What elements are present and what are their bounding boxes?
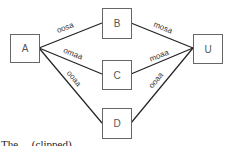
edge-label-a-d: ooaa bbox=[65, 69, 84, 89]
node-u: U bbox=[194, 35, 223, 64]
node-a: A bbox=[11, 35, 40, 63]
edge-label-c-u: moaa bbox=[148, 48, 170, 64]
edge-label-d-u: ooaa bbox=[147, 70, 166, 90]
node-c: C bbox=[103, 61, 132, 90]
node-b: B bbox=[103, 9, 132, 39]
edge-a-d: ooaa bbox=[39, 48, 102, 123]
edge-b-u: mosa bbox=[131, 20, 193, 48]
graph-diagram: oosa omaa ooaa mosa moaa ooaa A B C D U bbox=[0, 0, 230, 146]
edge-a-b: oosa bbox=[39, 20, 102, 48]
edge-label-a-b: oosa bbox=[55, 20, 75, 35]
node-u-label: U bbox=[204, 44, 211, 55]
figure-caption-clipped: The ... (clipped) bbox=[0, 140, 230, 146]
edge-c-u: moaa bbox=[131, 48, 193, 74]
node-a-label: A bbox=[22, 43, 29, 54]
node-d: D bbox=[103, 109, 132, 139]
caption-text: The ... (clipped) bbox=[1, 140, 72, 146]
node-d-label: D bbox=[113, 118, 120, 129]
node-b-label: B bbox=[114, 18, 121, 29]
node-c-label: C bbox=[113, 70, 120, 81]
